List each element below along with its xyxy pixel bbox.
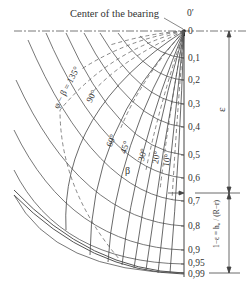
ratio-label: 1−ε = h₀ / (R−r) xyxy=(213,200,221,248)
tick-0-2: 0,2 xyxy=(188,76,200,86)
tick-0-1: 0,1 xyxy=(188,54,200,64)
title-label: Center of the bearing xyxy=(70,9,159,20)
tick-0: 0 xyxy=(188,27,193,37)
tick-0-95: 0,95 xyxy=(188,259,205,269)
epsilon-label: ε xyxy=(216,107,227,112)
tick-0-3: 0,3 xyxy=(188,100,200,110)
tick-0-9: 0,9 xyxy=(188,246,200,256)
tick-0-6: 0,6 xyxy=(188,174,200,184)
origin-label: 0′ xyxy=(187,9,194,19)
angle-10-label: 10° xyxy=(162,154,173,168)
tick-0-5: 0,5 xyxy=(188,151,200,161)
tick-0-7: 0,7 xyxy=(188,197,200,207)
tick-0-8: 0,8 xyxy=(188,222,200,232)
tick-0-99: 0,99 xyxy=(188,270,205,280)
leader-line xyxy=(164,18,183,29)
beta-label: β xyxy=(125,166,130,176)
tick-0-4: 0,4 xyxy=(188,123,200,133)
